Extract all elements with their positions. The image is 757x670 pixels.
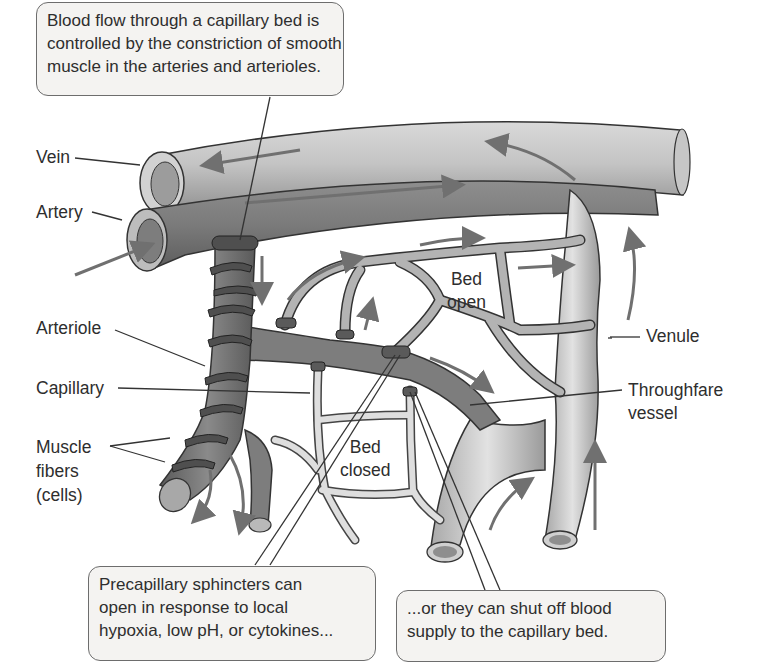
callout-top-line-1: Blood flow through a capillary bed is bbox=[47, 9, 333, 32]
throughfare-lower-branch bbox=[430, 420, 545, 555]
label-muscle-fibers-line-3: (cells) bbox=[36, 483, 91, 507]
callout-bottom-left-line-2: open in response to local bbox=[99, 596, 365, 619]
label-bed-closed-line-1: Bed bbox=[340, 436, 391, 459]
callout-bottom-left-line-1: Precapillary sphincters can bbox=[99, 573, 365, 596]
label-throughfare-line-1: Throughfare bbox=[628, 379, 723, 402]
label-throughfare-line-2: vessel bbox=[628, 402, 723, 425]
callout-bottom-right: ...or they can shut off blood supply to … bbox=[396, 590, 666, 662]
callout-bottom-left: Precapillary sphincters can open in resp… bbox=[88, 566, 376, 661]
label-arteriole: Arteriole bbox=[36, 318, 101, 339]
label-bed-open-line-1: Bed bbox=[447, 268, 486, 291]
label-artery: Artery bbox=[36, 202, 83, 223]
label-bed-closed-line-2: closed bbox=[340, 459, 391, 482]
label-muscle-fibers-line-2: fibers bbox=[36, 459, 91, 483]
label-venule: Venule bbox=[646, 326, 700, 347]
label-bed-open-line-2: open bbox=[447, 291, 486, 314]
label-bed-closed: Bed closed bbox=[340, 436, 391, 482]
label-muscle-fibers-line-1: Muscle bbox=[36, 435, 91, 459]
arteriole-lower-branch bbox=[245, 430, 272, 525]
label-vein: Vein bbox=[36, 147, 70, 168]
callout-top-line-2: controlled by the constriction of smooth bbox=[47, 32, 333, 55]
label-capillary: Capillary bbox=[36, 378, 104, 399]
callout-bottom-left-line-3: hypoxia, low pH, or cytokines... bbox=[99, 619, 365, 642]
label-throughfare-vessel: Throughfare vessel bbox=[628, 379, 723, 425]
callout-top: Blood flow through a capillary bed is co… bbox=[36, 2, 344, 96]
callout-bottom-right-line-2: supply to the capillary bed. bbox=[407, 620, 655, 643]
label-bed-open: Bed open bbox=[447, 268, 486, 314]
callout-bottom-right-line-1: ...or they can shut off blood bbox=[407, 597, 655, 620]
label-muscle-fibers: Muscle fibers (cells) bbox=[36, 435, 91, 507]
callout-top-line-3: muscle in the arteries and arterioles. bbox=[47, 55, 333, 78]
